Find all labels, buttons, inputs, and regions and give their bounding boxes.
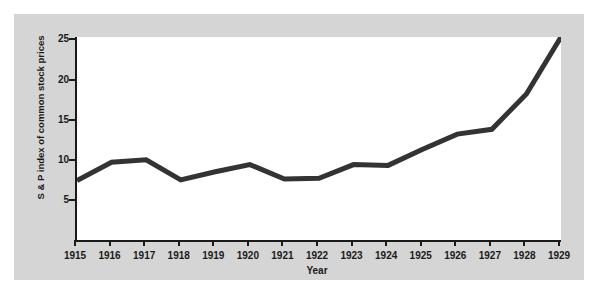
x-axis-tick-mark: [558, 240, 560, 246]
y-axis-tick-mark: [69, 199, 75, 201]
y-axis-tick-labels: 510152025: [25, 37, 69, 240]
x-axis-tick-mark: [281, 240, 283, 246]
x-axis-tick-mark: [523, 240, 525, 246]
x-axis-tick-mark: [316, 240, 318, 246]
line-series-svg: [77, 37, 561, 240]
x-axis-tick-mark: [351, 240, 353, 246]
x-axis-tick-mark: [109, 240, 111, 246]
x-axis-tick-mark: [212, 240, 214, 246]
data-line-sp-index: [77, 37, 561, 181]
x-axis-tick-label: 1929: [539, 250, 579, 262]
plot-area: [75, 37, 561, 242]
x-axis-tick-mark: [178, 240, 180, 246]
y-axis-tick-mark: [69, 38, 75, 40]
y-axis-tick-mark: [69, 119, 75, 121]
y-axis-tick-mark: [69, 159, 75, 161]
chart-figure: 510152025 Year S & P index of common sto…: [0, 0, 598, 295]
x-axis-tick-mark: [74, 240, 76, 246]
x-axis-tick-mark: [420, 240, 422, 246]
x-axis-title: Year: [75, 265, 559, 276]
x-axis-tick-mark: [143, 240, 145, 246]
x-axis-tick-mark: [454, 240, 456, 246]
x-axis-tick-mark: [489, 240, 491, 246]
y-axis-title: S & P index of common stock prices: [35, 8, 46, 228]
x-axis-tick-mark: [385, 240, 387, 246]
y-axis-tick-mark: [69, 79, 75, 81]
x-axis-tick-mark: [247, 240, 249, 246]
